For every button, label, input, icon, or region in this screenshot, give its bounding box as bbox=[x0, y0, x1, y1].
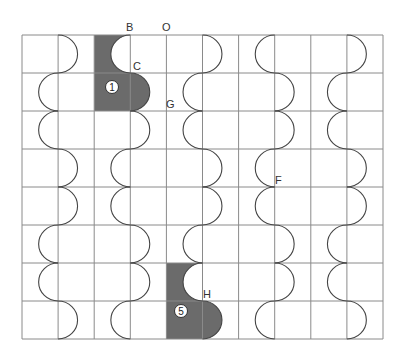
wave-bulge-right bbox=[347, 187, 366, 225]
wave-bulge-left bbox=[39, 111, 58, 149]
wave-bulge-right bbox=[58, 35, 77, 73]
piece-number-label: 1 bbox=[109, 82, 115, 93]
wave-bulge-left bbox=[183, 225, 202, 263]
wave-bulge-right bbox=[203, 149, 222, 187]
point-label-h: H bbox=[203, 288, 211, 300]
wave-bulge-left bbox=[39, 225, 58, 263]
piece-number-label: 5 bbox=[178, 306, 184, 317]
wave-bulge-left bbox=[183, 111, 202, 149]
wave-bulge-right bbox=[347, 301, 366, 339]
wave-bulge-right bbox=[58, 149, 77, 187]
wave-bulge-left bbox=[327, 263, 346, 301]
wave-bulge-right bbox=[130, 263, 149, 301]
wave-bulge-right bbox=[203, 35, 222, 73]
wave-bulge-right bbox=[347, 149, 366, 187]
wave-bulge-right bbox=[275, 263, 294, 301]
wave-bulge-left bbox=[111, 301, 130, 339]
wave-bulge-left bbox=[111, 187, 130, 225]
wave-bulge-left bbox=[255, 149, 274, 187]
wave-bulge-right bbox=[347, 35, 366, 73]
point-label-o: O bbox=[162, 21, 171, 33]
wave-bulge-left bbox=[111, 149, 130, 187]
wave-bulge-left bbox=[39, 263, 58, 301]
wave-bulge-left bbox=[255, 187, 274, 225]
wave-bulge-left bbox=[39, 73, 58, 111]
wave-bulge-right bbox=[275, 111, 294, 149]
point-label-c: C bbox=[133, 60, 141, 72]
diagram-canvas: BOCGFH 15 bbox=[0, 0, 405, 357]
point-label-b: B bbox=[126, 21, 133, 33]
wave-bulge-right bbox=[203, 187, 222, 225]
wave-bulge-right bbox=[275, 225, 294, 263]
wave-bulge-left bbox=[255, 35, 274, 73]
puzzle-diagram: BOCGFH 15 bbox=[0, 0, 405, 357]
wave-bulge-left bbox=[183, 73, 202, 111]
wave-bulge-right bbox=[130, 111, 149, 149]
wave-bulge-left bbox=[327, 73, 346, 111]
wave-bulge-left bbox=[327, 225, 346, 263]
wave-bulge-left bbox=[255, 301, 274, 339]
point-label-g: G bbox=[166, 98, 175, 110]
wave-bulge-right bbox=[130, 225, 149, 263]
point-label-f: F bbox=[275, 174, 282, 186]
wave-bulge-right bbox=[58, 301, 77, 339]
point-labels: BOCGFH bbox=[126, 21, 282, 300]
wave-bulge-right bbox=[58, 187, 77, 225]
wave-bulge-left bbox=[327, 111, 346, 149]
wave-bulge-right bbox=[275, 73, 294, 111]
